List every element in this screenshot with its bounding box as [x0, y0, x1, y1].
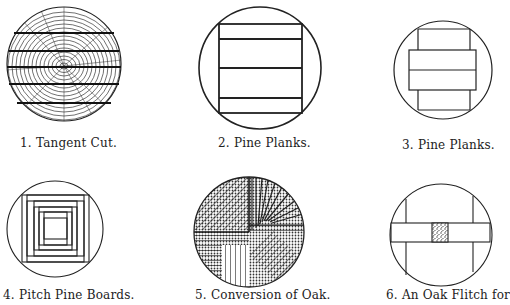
figure-6-oak-flitch — [390, 184, 492, 286]
figure-number: 4. — [3, 288, 15, 302]
figure-number: 6. — [386, 288, 398, 302]
figure-caption: Pitch Pine Boards. — [19, 288, 135, 302]
caption-figure-4: 4. Pitch Pine Boards. — [3, 288, 135, 302]
figure-4-pitch-pine-boards — [7, 181, 103, 277]
figure-number: 5. — [195, 288, 207, 302]
figure-number: 2. — [218, 136, 230, 150]
figure-1-tangent-cut — [6, 5, 122, 125]
figure-2-pine-planks — [199, 7, 321, 129]
figure-caption: Tangent Cut. — [36, 136, 117, 150]
figure-caption: An Oak Flitch for — [402, 288, 510, 302]
figure-number: 3. — [402, 138, 414, 152]
caption-figure-5: 5. Conversion of Oak. — [195, 288, 331, 302]
figure-caption: Conversion of Oak. — [211, 288, 331, 302]
caption-figure-6: 6. An Oak Flitch for — [386, 288, 510, 302]
figure-caption: Pine Planks. — [234, 136, 311, 150]
figure-number: 1. — [20, 136, 32, 150]
figure-caption: Pine Planks. — [418, 138, 495, 152]
caption-figure-1: 1. Tangent Cut. — [20, 136, 117, 150]
caption-figure-3: 3. Pine Planks. — [402, 138, 495, 152]
figure-5-conversion-of-oak — [190, 175, 310, 290]
caption-figure-2: 2. Pine Planks. — [218, 136, 311, 150]
figure-3-pine-planks — [394, 21, 492, 119]
